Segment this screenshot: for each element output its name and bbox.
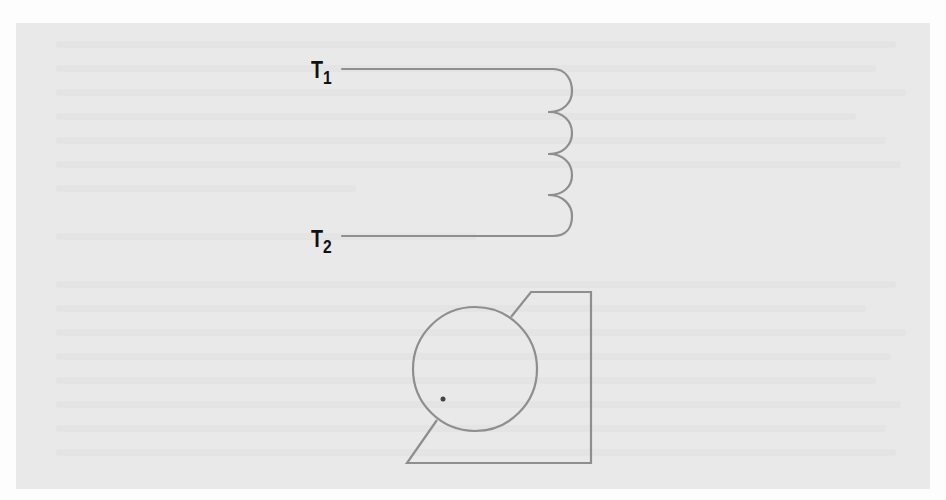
motor-frame-outline: [407, 292, 591, 463]
terminal-label-t1-main: T: [311, 56, 322, 83]
terminal-label-t1-sub: 1: [323, 67, 331, 88]
terminal-label-t1: T1: [311, 58, 331, 82]
motor-symbol: [407, 292, 591, 463]
coil-loop-1: [549, 69, 572, 112]
motor-rotor-circle: [413, 307, 537, 431]
terminal-label-t2-main: T: [311, 225, 322, 252]
schematic-diagram: [0, 0, 946, 500]
coil-loop-4: [549, 195, 572, 236]
inductor-coil: [342, 69, 572, 236]
coil-loop-2: [549, 112, 572, 154]
motor-center-dot: [441, 397, 446, 402]
terminal-label-t2-sub: 2: [323, 236, 331, 257]
coil-loop-3: [549, 154, 572, 195]
terminal-label-t2: T2: [311, 227, 331, 251]
